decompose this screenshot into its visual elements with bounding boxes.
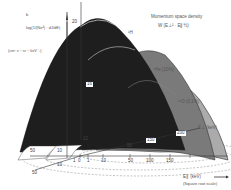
y-tick-150: 150 [146, 138, 156, 143]
left-tick-10b: 10 [57, 163, 62, 168]
left-tick-50b: 50 [32, 171, 37, 176]
left-tick-1: 1 [73, 159, 76, 164]
z-tick-16: 16 [86, 82, 93, 87]
x-axis-label: E∥ (keV) [183, 175, 201, 180]
x-tick-10: 10 [101, 159, 106, 164]
x-tick-150: 150 [166, 159, 174, 164]
z-tick-12: 12 [83, 137, 88, 142]
x-tick-1: 1 [87, 159, 90, 164]
left-tick-10: 10 [57, 149, 62, 154]
panel-label: b [26, 13, 28, 17]
chart-title: Momentum space density [151, 15, 202, 20]
z-axis-label: log(1/(Ne²) · dJ/dE) [26, 26, 60, 30]
series-label-h: ¹H [128, 31, 133, 36]
series-label-he: ⁴He (10%) [153, 68, 174, 73]
z-tick-20: 20 [71, 20, 78, 25]
chart-subtitle: W (E⊥² · E∥½) [158, 24, 189, 29]
x-tick-100: 100 [146, 159, 154, 164]
z-axis-units: (cm² s⁻¹ sr⁻¹ keV⁻³) [8, 50, 41, 54]
x-tick-50: 50 [128, 159, 133, 164]
y-tick-200: 200 [176, 131, 186, 136]
series-label-o: ¹⁶O (0.1%) [178, 100, 199, 105]
y-axis-label: E⊥ (keV) [198, 126, 217, 131]
x-tick-0: 0 [78, 159, 81, 164]
left-tick-50: 50 [30, 149, 35, 154]
x-axis-note: (Square root scale) [183, 182, 217, 186]
y-tick-50: 50 [127, 144, 132, 149]
